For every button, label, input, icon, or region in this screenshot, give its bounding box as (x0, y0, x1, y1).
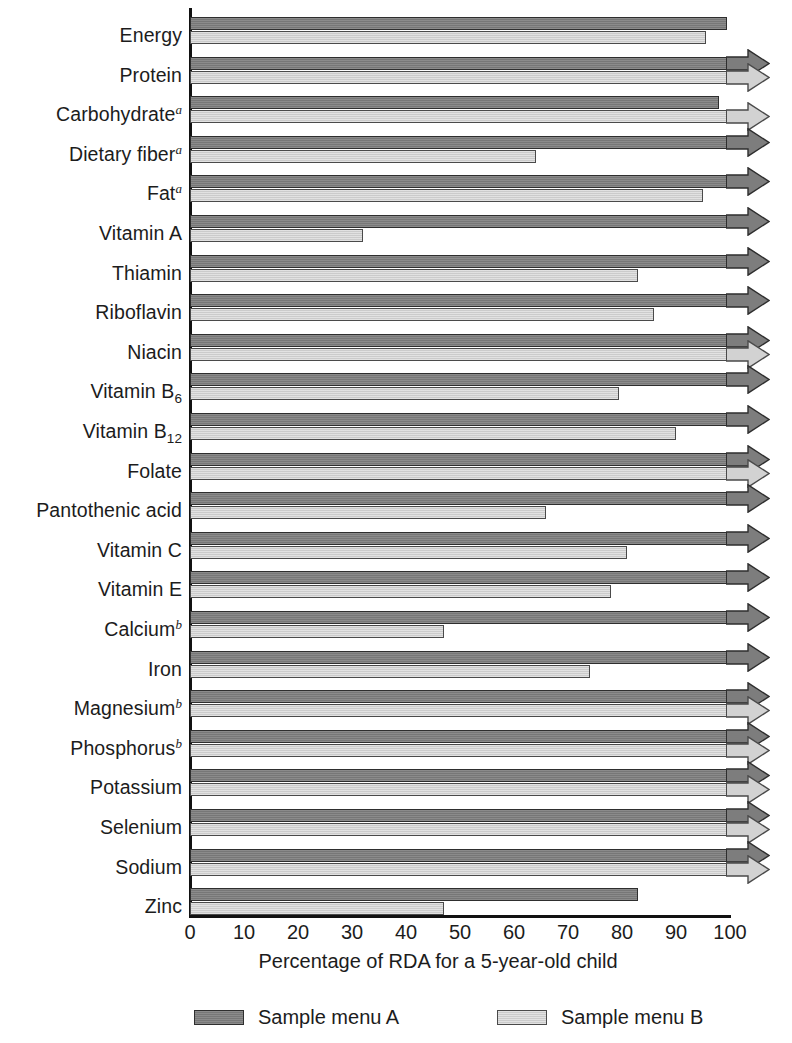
x-tick-50: 50 (449, 921, 471, 943)
bar-overflow-arrow-icon (726, 563, 770, 592)
x-axis-title-text: Percentage of RDA for a 5-year-old child (174, 950, 617, 973)
x-tick-30: 30 (341, 921, 363, 943)
bar-series-b (190, 189, 703, 202)
bar-series-b (190, 863, 727, 876)
bar-series-a (190, 730, 727, 743)
bar-series-a (190, 492, 727, 505)
bar-series-a (190, 294, 727, 307)
bar-overflow-arrow-icon (726, 484, 770, 513)
category-label-vitamin-a: Vitamin A (0, 224, 182, 244)
category-label-pantothenic-acid: Pantothenic acid (0, 501, 182, 521)
bar-series-b (190, 506, 546, 519)
bar-series-a (190, 334, 727, 347)
bar-series-b (190, 585, 611, 598)
category-label-magnesium: Magnesiumb (0, 699, 182, 719)
bar-series-b (190, 387, 619, 400)
bar-series-a (190, 96, 719, 109)
bar-series-b (190, 783, 727, 796)
bar-series-a (190, 849, 727, 862)
bar-overflow-arrow-icon (726, 167, 770, 196)
category-label-sodium: Sodium (0, 858, 182, 878)
bar-series-b (190, 110, 727, 123)
bar-series-a (190, 651, 727, 664)
bar-series-b (190, 744, 727, 757)
category-label-riboflavin: Riboflavin (0, 303, 182, 323)
category-label-selenium: Selenium (0, 818, 182, 838)
legend-item-sample-menu-b: Sample menu B (497, 1006, 703, 1029)
plot-area (190, 8, 730, 916)
bar-series-b (190, 427, 676, 440)
bar-overflow-arrow-icon (726, 643, 770, 672)
category-label-potassium: Potassium (0, 778, 182, 798)
bar-series-b (190, 348, 727, 361)
category-label-phosphorus: Phosphorusb (0, 739, 182, 759)
category-label-fat: Fata (0, 184, 182, 204)
category-label-vitamin-b6: Vitamin B6 (0, 382, 182, 402)
x-tick-60: 60 (503, 921, 525, 943)
bar-series-a (190, 888, 638, 901)
x-tick-100: 100 (713, 921, 746, 943)
category-label-dietary-fiber: Dietary fibera (0, 145, 182, 165)
bar-series-a (190, 413, 727, 426)
category-label-folate: Folate (0, 462, 182, 482)
bar-overflow-arrow-icon (726, 207, 770, 236)
category-label-vitamin-e: Vitamin E (0, 580, 182, 600)
bar-series-a (190, 255, 727, 268)
bar-series-a (190, 373, 727, 386)
chart-legend: Sample menu A Sample menu B (0, 1006, 792, 1036)
bar-series-a (190, 769, 727, 782)
category-label-vitamin-c: Vitamin C (0, 541, 182, 561)
bar-series-b (190, 31, 706, 44)
bar-series-a (190, 57, 727, 70)
category-label-protein: Carbohydratea (0, 105, 182, 125)
bar-series-b (190, 625, 444, 638)
bar-overflow-arrow-icon (726, 855, 770, 884)
bar-series-a (190, 690, 727, 703)
category-label-iron: Iron (0, 660, 182, 680)
category-label-zinc: Zinc (0, 897, 182, 917)
category-label-vitamin-b12: Vitamin B12 (0, 422, 182, 442)
x-tick-0: 0 (184, 921, 195, 943)
bar-series-b (190, 704, 727, 717)
bar-overflow-arrow-icon (726, 524, 770, 553)
bar-series-b (190, 269, 638, 282)
bar-overflow-arrow-icon (726, 286, 770, 315)
bar-series-a (190, 532, 727, 545)
x-tick-70: 70 (557, 921, 579, 943)
bar-series-b (190, 665, 590, 678)
bar-series-a (190, 453, 727, 466)
bar-series-a (190, 17, 727, 30)
x-tick-20: 20 (287, 921, 309, 943)
bar-series-b (190, 902, 444, 915)
legend-label-a: Sample menu A (258, 1006, 399, 1029)
legend-label-b: Sample menu B (561, 1006, 703, 1029)
bar-series-a (190, 215, 727, 228)
legend-swatch-b-icon (497, 1010, 547, 1025)
bar-overflow-arrow-icon (726, 365, 770, 394)
bar-overflow-arrow-icon (726, 128, 770, 157)
x-tick-80: 80 (611, 921, 633, 943)
bar-overflow-arrow-icon (726, 405, 770, 434)
legend-swatch-a-icon (194, 1010, 244, 1025)
bar-series-a (190, 571, 727, 584)
x-tick-90: 90 (665, 921, 687, 943)
bar-overflow-arrow-icon (726, 603, 770, 632)
category-label-thiamin: Thiamin (0, 264, 182, 284)
bar-series-b (190, 150, 536, 163)
x-tick-40: 40 (395, 921, 417, 943)
category-label-calcium: Calciumb (0, 620, 182, 640)
x-axis-title: Percentage of RDA for a 5-year-old child (0, 950, 792, 973)
bar-chart-figure: EnergyProteinCarbohydrateaDietary fibera… (0, 0, 792, 1043)
legend-item-sample-menu-a: Sample menu A (194, 1006, 399, 1029)
x-tick-10: 10 (233, 921, 255, 943)
bar-overflow-arrow-icon (726, 247, 770, 276)
category-label-energy: Energy (0, 26, 182, 46)
bar-series-b (190, 546, 627, 559)
category-label-carbohydrate: Protein (0, 66, 182, 86)
bar-series-a (190, 136, 727, 149)
x-axis-tick-labels: 0102030405060708090100 (190, 921, 730, 947)
category-label-niacin: Niacin (0, 343, 182, 363)
bar-series-a (190, 175, 727, 188)
bar-series-b (190, 467, 727, 480)
bar-series-b (190, 308, 654, 321)
